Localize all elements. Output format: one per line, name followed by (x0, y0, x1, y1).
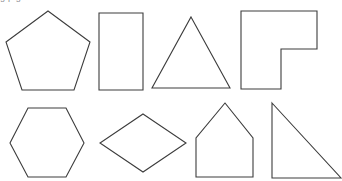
shape-pentagon (6, 11, 90, 90)
shape-triangle (152, 17, 230, 88)
shape-l-shape (241, 11, 317, 89)
shape-right-triangle (272, 103, 341, 178)
shape-rhombus (100, 114, 186, 172)
shape-hexagon (10, 108, 84, 177)
shapes-canvas (0, 0, 342, 181)
shape-rectangle (99, 13, 143, 90)
shape-house-pentagon (196, 103, 253, 177)
geometric-shapes-figure: g p g (0, 0, 342, 181)
